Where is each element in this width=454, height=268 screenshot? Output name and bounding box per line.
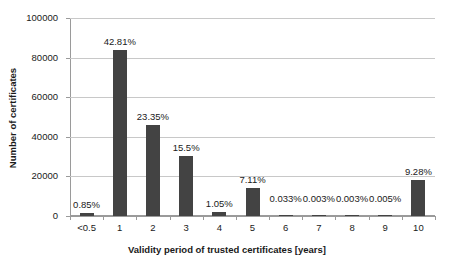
y-tick-label: 60000 xyxy=(32,92,58,102)
data-label-5: 7.11% xyxy=(223,175,283,185)
x-tick-mark xyxy=(70,216,71,220)
x-tick-mark xyxy=(269,216,270,220)
gridline-0 xyxy=(70,216,435,217)
x-tick-mark xyxy=(170,216,171,220)
bar-<0.5 xyxy=(80,213,94,216)
bar-4 xyxy=(212,212,226,216)
bar-9 xyxy=(378,215,392,217)
x-tick-mark xyxy=(136,216,137,220)
data-label-1: 42.81% xyxy=(90,37,150,47)
x-tick-mark xyxy=(435,216,436,220)
x-tick-mark xyxy=(302,216,303,220)
data-label-4: 1.05% xyxy=(189,199,249,209)
y-tick-label: 100000 xyxy=(26,13,58,23)
y-tick-mark xyxy=(66,58,70,59)
x-tick-label-10: 10 xyxy=(395,223,441,233)
gridline-100000 xyxy=(70,18,435,19)
bar-8 xyxy=(345,215,359,217)
y-tick-label: 0 xyxy=(53,211,58,221)
data-label-<0.5: 0.85% xyxy=(57,200,117,210)
y-tick-mark xyxy=(66,97,70,98)
y-tick-mark xyxy=(66,176,70,177)
y-axis-tick-labels: 020000400006000080000100000 xyxy=(0,0,66,268)
bar-2 xyxy=(146,125,160,216)
y-tick-label: 20000 xyxy=(32,171,58,181)
x-tick-mark xyxy=(369,216,370,220)
bar-6 xyxy=(279,215,293,217)
bar-chart: Number of certificates 02000040000600008… xyxy=(0,0,454,268)
y-tick-label: 40000 xyxy=(32,132,58,142)
data-label-9: 0.005% xyxy=(355,194,415,204)
x-tick-mark xyxy=(103,216,104,220)
data-label-2: 23.35% xyxy=(123,112,183,122)
bar-1 xyxy=(113,50,127,216)
y-axis-line xyxy=(70,18,71,216)
x-tick-mark xyxy=(335,216,336,220)
y-tick-label: 80000 xyxy=(32,53,58,63)
y-tick-mark xyxy=(66,18,70,19)
x-tick-mark xyxy=(236,216,237,220)
x-tick-mark xyxy=(402,216,403,220)
y-tick-mark xyxy=(66,137,70,138)
x-tick-mark xyxy=(203,216,204,220)
x-axis-title: Validity period of trusted certificates … xyxy=(0,244,454,255)
data-label-3: 15.5% xyxy=(156,143,216,153)
data-label-10: 9.28% xyxy=(388,167,448,177)
bar-7 xyxy=(312,215,326,217)
